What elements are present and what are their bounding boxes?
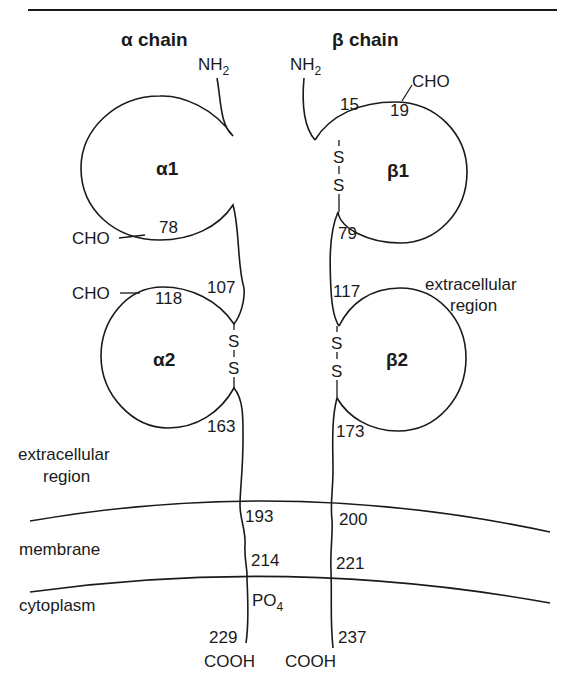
residue-229: 229	[209, 628, 237, 647]
alpha1-domain-loop	[81, 78, 244, 288]
beta1-disulfide-s1: S	[333, 148, 344, 167]
beta2-disulfide-s1: S	[331, 334, 342, 353]
residue-173: 173	[336, 422, 364, 441]
residue-79: 79	[338, 224, 357, 243]
mhc-class-ii-diagram: α chain β chain NH2 CHO 78 α1 107 118 CH…	[0, 0, 573, 693]
residue-200: 200	[339, 510, 367, 529]
residue-19: 19	[390, 101, 409, 120]
residue-118: 118	[155, 289, 182, 308]
residue-117: 117	[333, 282, 360, 301]
membrane-inner-boundary	[30, 576, 550, 603]
beta2-domain-label: β2	[386, 349, 408, 370]
phosphorylation-label: PO4	[252, 591, 284, 614]
residue-214: 214	[251, 551, 279, 570]
alpha-disulfide-s1: S	[228, 332, 239, 351]
alpha-n-terminus: NH2	[198, 55, 230, 78]
residue-107: 107	[207, 278, 235, 297]
alpha2-domain-label: α2	[153, 349, 175, 370]
extracellular-region-left-line2: region	[43, 467, 90, 486]
residue-163: 163	[207, 417, 235, 436]
alpha1-domain-label: α1	[156, 158, 179, 179]
alpha-transmembrane-tail	[240, 440, 248, 643]
beta-c-terminus: COOH	[285, 652, 336, 671]
beta1-glycosylation-bond	[402, 85, 412, 101]
beta-chain-title: β chain	[332, 29, 399, 50]
residue-221: 221	[336, 554, 364, 573]
alpha-chain-title: α chain	[121, 29, 188, 50]
alpha-c-terminus: COOH	[204, 652, 255, 671]
alpha-disulfide-s2: S	[228, 359, 239, 378]
residue-15: 15	[340, 95, 359, 114]
extracellular-region-left-line1: extracellular	[18, 445, 110, 464]
residue-237: 237	[338, 628, 366, 647]
extracellular-region-right-line1: extracellular	[425, 275, 517, 294]
beta-n-terminus: NH2	[290, 55, 322, 78]
alpha1-cho-label: CHO	[72, 229, 110, 248]
cytoplasm-label: cytoplasm	[19, 596, 96, 615]
residue-193: 193	[245, 507, 273, 526]
beta1-disulfide-s2: S	[333, 176, 344, 195]
beta-n-terminal-segment	[303, 78, 315, 140]
beta1-cho-label: CHO	[412, 72, 450, 91]
membrane-outer-boundary	[30, 501, 550, 532]
membrane-label: membrane	[19, 540, 100, 559]
extracellular-region-right-line2: region	[450, 296, 497, 315]
residue-78: 78	[159, 218, 178, 237]
alpha2-cho-label: CHO	[72, 284, 110, 303]
beta2-disulfide-s2: S	[331, 362, 342, 381]
beta1-domain-label: β1	[387, 160, 410, 181]
